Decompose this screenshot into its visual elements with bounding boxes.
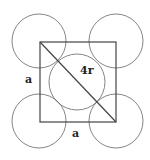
label-side-bottom: a — [72, 127, 79, 140]
label-side-left: a — [25, 73, 32, 86]
circle-bottom-left — [12, 94, 66, 148]
circle-top-left — [12, 14, 66, 68]
label-diagonal: 4r — [80, 64, 94, 77]
bcc-diagram: a a 4r — [0, 0, 150, 160]
